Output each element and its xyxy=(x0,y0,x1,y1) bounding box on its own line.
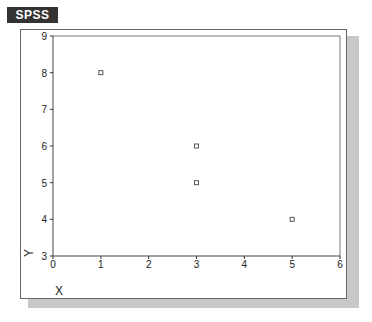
x-tick-label: 0 xyxy=(50,259,56,270)
x-tick-label: 3 xyxy=(194,259,200,270)
data-point xyxy=(99,71,103,75)
data-point xyxy=(195,181,199,185)
x-tick-label: 6 xyxy=(337,259,343,270)
y-axis-label: Y xyxy=(22,249,36,257)
y-tick-label: 9 xyxy=(41,31,47,42)
x-axis-label: X xyxy=(55,284,63,298)
y-tick-label: 4 xyxy=(41,214,47,225)
y-tick-label: 3 xyxy=(41,251,47,262)
y-tick-label: 6 xyxy=(41,141,47,152)
y-tick-label: 8 xyxy=(41,68,47,79)
x-tick-label: 1 xyxy=(98,259,104,270)
data-point xyxy=(195,144,199,148)
x-axis-ticks: 0123456 xyxy=(50,256,343,270)
x-tick-label: 5 xyxy=(289,259,295,270)
data-points xyxy=(99,71,294,222)
y-axis-ticks: 3456789 xyxy=(41,31,53,262)
y-tick-label: 7 xyxy=(41,104,47,115)
x-tick-label: 4 xyxy=(242,259,248,270)
x-tick-label: 2 xyxy=(146,259,152,270)
data-point xyxy=(290,217,294,221)
scatter-plot: 3456789 0123456 Y X xyxy=(0,0,372,322)
y-tick-label: 5 xyxy=(41,178,47,189)
